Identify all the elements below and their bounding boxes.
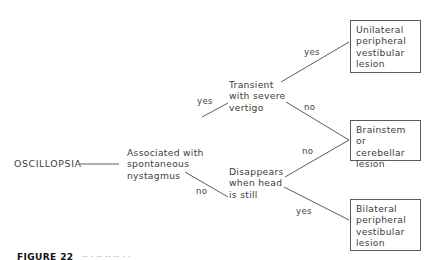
box-line: Brainstem <box>356 124 415 135</box>
box-line: lesion <box>356 158 415 169</box>
node-line: with severe <box>229 90 285 101</box>
edge-label-q3-yes: yes <box>296 206 312 216</box>
box-line: vestibular <box>356 47 415 58</box>
node-line: is still <box>229 189 284 200</box>
edge-label-q2-no: no <box>304 102 315 112</box>
edge-label-q3-no: no <box>302 146 313 156</box>
edge-q3-no <box>285 140 349 177</box>
decision-node-transient-vertigo: Transient with severe vertigo <box>229 79 285 113</box>
box-line: or cerebellar <box>356 135 415 158</box>
outcome-box-unilateral: Unilateral peripheral vestibular lesion <box>350 20 421 73</box>
box-line: lesion <box>356 237 415 248</box>
decision-node-spontaneous-nystagmus: Associated with spontaneous nystagmus <box>127 147 204 181</box>
box-line: peripheral <box>356 214 415 225</box>
box-line: Unilateral <box>356 24 415 35</box>
edge-label-q2-yes: yes <box>304 47 320 57</box>
edge-label-q1-yes: yes <box>197 96 213 106</box>
oscillopsia-decision-tree: OSCILLOPSIA Associated with spontaneous … <box>0 0 433 260</box>
node-line: Disappears <box>229 166 284 177</box>
node-line: nystagmus <box>127 170 204 181</box>
outcome-box-bilateral: Bilateral peripheral vestibular lesion <box>350 199 421 251</box>
root-node-oscillopsia: OSCILLOPSIA <box>14 158 82 169</box>
edge-label-q1-no: no <box>196 186 207 196</box>
node-line: vertigo <box>229 102 285 113</box>
node-line: Associated with <box>127 147 204 158</box>
box-line: lesion <box>356 58 415 69</box>
node-line: spontaneous <box>127 158 204 169</box>
box-line: peripheral <box>356 35 415 46</box>
edge-q2-no <box>286 102 349 140</box>
decision-node-disappears-head-still: Disappears when head is still <box>229 166 284 200</box>
node-line: Transient <box>229 79 285 90</box>
figure-caption-text: ·· · ·· ·· ·· · · <box>76 252 130 260</box>
outcome-box-central: Brainstem or cerebellar lesion <box>350 120 421 161</box>
box-line: Bilateral <box>356 203 415 214</box>
node-line: when head <box>229 177 284 188</box>
figure-label: FIGURE 22 <box>17 252 74 260</box>
edge-q3-yes <box>284 187 349 220</box>
box-line: vestibular <box>356 226 415 237</box>
figure-caption: FIGURE 22 ·· · ·· ·· ·· · · <box>17 252 131 260</box>
